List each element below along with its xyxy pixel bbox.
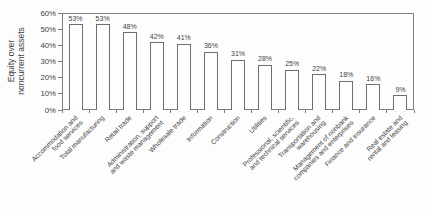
y-tick-label: 0% (0, 106, 56, 115)
bar-chart: Equity over noncurrent assets 0%10%20%30… (0, 0, 432, 210)
x-tick (305, 110, 306, 113)
x-tick (197, 110, 198, 113)
x-tick (89, 110, 90, 113)
bar (258, 65, 272, 110)
x-tick (332, 110, 333, 113)
x-axis-label: Utilities (248, 114, 269, 135)
x-tick (116, 110, 117, 113)
x-tick (278, 110, 279, 113)
bar (123, 32, 137, 110)
bar (285, 70, 299, 110)
bar-value-label: 25% (285, 60, 299, 67)
x-tick (386, 110, 387, 113)
y-tick-label: 20% (0, 73, 56, 82)
y-tick (58, 61, 62, 62)
bar (366, 84, 380, 110)
y-tick-label: 10% (0, 89, 56, 98)
bar (69, 24, 83, 110)
x-tick (251, 110, 252, 113)
bar-value-label: 28% (258, 55, 272, 62)
y-tick (58, 93, 62, 94)
bar-value-label: 42% (150, 33, 164, 40)
bar-value-label: 53% (96, 15, 110, 22)
x-tick (359, 110, 360, 113)
y-tick-label: 60% (0, 9, 56, 18)
bar (177, 44, 191, 110)
bar-value-label: 41% (177, 34, 191, 41)
bar-value-label: 53% (69, 15, 83, 22)
y-tick (58, 45, 62, 46)
y-tick-label: 30% (0, 57, 56, 66)
bar-value-label: 9% (395, 86, 405, 93)
bar-value-label: 22% (312, 65, 326, 72)
bar (204, 52, 218, 110)
bar (312, 74, 326, 110)
x-tick (414, 110, 415, 113)
x-tick (170, 110, 171, 113)
bar (231, 60, 245, 110)
bar-value-label: 16% (366, 75, 380, 82)
x-tick (62, 110, 63, 113)
bar (393, 95, 407, 110)
bar-value-label: 31% (231, 50, 245, 57)
bar-value-label: 18% (339, 71, 353, 78)
bar-value-label: 36% (204, 42, 218, 49)
x-tick (143, 110, 144, 113)
bar (339, 81, 353, 110)
bar (96, 24, 110, 110)
y-tick (58, 77, 62, 78)
x-tick (224, 110, 225, 113)
bar (150, 42, 164, 110)
y-tick (58, 29, 62, 30)
y-tick-label: 40% (0, 41, 56, 50)
bar-value-label: 48% (123, 23, 137, 30)
y-tick-label: 50% (0, 25, 56, 34)
y-tick (58, 13, 62, 14)
